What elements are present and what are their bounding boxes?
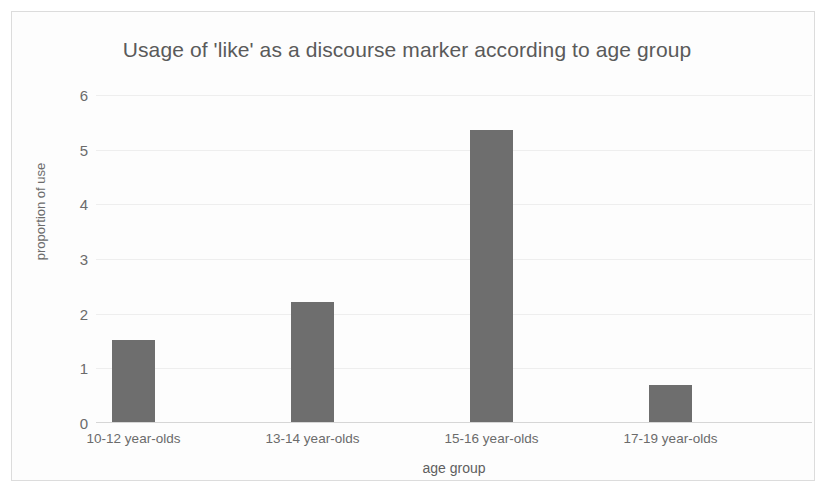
bar	[291, 302, 334, 423]
chart-frame: Usage of 'like' as a discourse marker ac…	[11, 11, 815, 481]
y-axis-tick-label: 1	[62, 360, 88, 377]
chart-screenshot: Usage of 'like' as a discourse marker ac…	[0, 0, 833, 504]
y-axis-title: proportion of use	[33, 142, 48, 282]
x-axis-tick-label: 13-14 year-olds	[243, 431, 383, 446]
y-axis-tick-label: 6	[62, 87, 88, 104]
y-axis-tick-label: 4	[62, 196, 88, 213]
y-axis-tick-label: 2	[62, 305, 88, 322]
gridline	[96, 95, 812, 96]
y-axis-tick-label: 5	[62, 141, 88, 158]
x-axis-tick-label: 10-12 year-olds	[64, 431, 204, 446]
x-axis-tick-label: 17-19 year-olds	[601, 431, 741, 446]
gridline	[96, 314, 812, 315]
gridline	[96, 204, 812, 205]
y-axis-tick-label: 0	[62, 415, 88, 432]
x-axis-baseline	[96, 422, 812, 423]
y-axis-tick-labels: 0123456	[58, 95, 88, 423]
plot-area	[96, 95, 812, 423]
bar	[112, 340, 155, 423]
y-axis-tick-label: 3	[62, 251, 88, 268]
x-axis-tick-label: 15-16 year-olds	[422, 431, 562, 446]
x-axis-tick-labels: 10-12 year-olds13-14 year-olds15-16 year…	[96, 431, 812, 453]
gridline	[96, 368, 812, 369]
chart-title: Usage of 'like' as a discourse marker ac…	[12, 38, 802, 62]
gridline	[96, 150, 812, 151]
x-axis-title: age group	[96, 460, 812, 476]
bar	[649, 385, 692, 423]
gridline	[96, 259, 812, 260]
bar	[470, 130, 513, 423]
